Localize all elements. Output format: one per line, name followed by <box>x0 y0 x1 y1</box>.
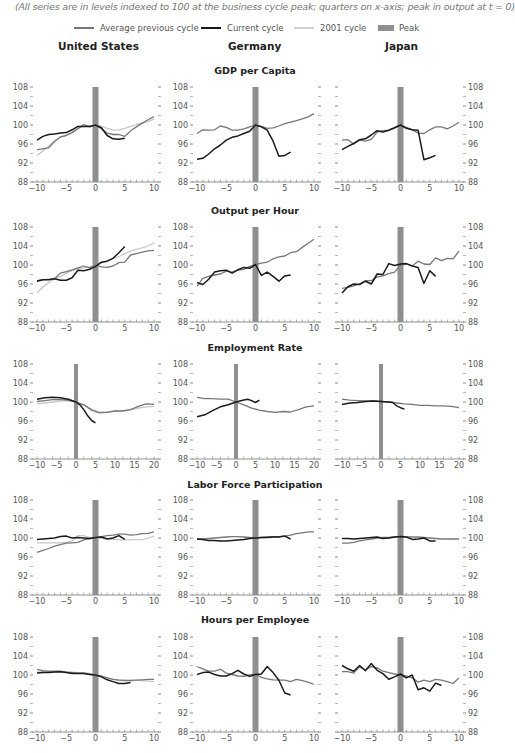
svg-text:108: 108 <box>173 633 188 642</box>
svg-text:88: 88 <box>18 591 28 600</box>
svg-text:−10: −10 <box>334 734 351 743</box>
svg-text:104: 104 <box>13 102 28 111</box>
svg-text:10: 10 <box>309 184 319 193</box>
svg-text:0: 0 <box>398 324 403 333</box>
svg-text:−10: −10 <box>189 597 206 606</box>
panel-output-per-hour-united-states: 889296100104108−10−50510 <box>13 223 161 333</box>
peak-bar <box>398 87 404 182</box>
svg-text:100: 100 <box>13 398 28 407</box>
svg-text:92: 92 <box>18 159 28 168</box>
svg-text:88: 88 <box>468 318 478 327</box>
svg-text:−5: −5 <box>365 734 377 743</box>
svg-text:10: 10 <box>454 184 464 193</box>
panel-gdp-per-capita-germany: 889296100104108−10−50510 <box>173 83 321 193</box>
svg-text:100: 100 <box>173 671 188 680</box>
svg-text:108: 108 <box>13 633 28 642</box>
panel-gdp-per-capita-united-states: 889296100104108−10−50510 <box>13 83 161 193</box>
svg-text:92: 92 <box>468 436 478 445</box>
svg-text:5: 5 <box>427 184 432 193</box>
svg-text:5: 5 <box>93 461 98 470</box>
svg-text:92: 92 <box>18 709 28 718</box>
svg-text:0: 0 <box>93 734 98 743</box>
panel-output-per-hour-germany: 889296100104108−10−50510 <box>173 223 321 333</box>
svg-text:92: 92 <box>18 436 28 445</box>
svg-text:−10: −10 <box>189 324 206 333</box>
svg-text:104: 104 <box>13 652 28 661</box>
svg-text:104: 104 <box>173 515 188 524</box>
series-current-cycle <box>37 247 125 282</box>
svg-text:104: 104 <box>468 652 483 661</box>
svg-text:10: 10 <box>309 324 319 333</box>
svg-text:92: 92 <box>178 299 188 308</box>
svg-text:100: 100 <box>468 671 483 680</box>
svg-text:−5: −5 <box>220 184 232 193</box>
svg-text:88: 88 <box>178 591 188 600</box>
svg-text:5: 5 <box>122 597 127 606</box>
panel-employment-rate-germany: 889296100104108−10−505101520 <box>173 360 321 470</box>
svg-text:0: 0 <box>253 597 258 606</box>
peak-bar <box>253 500 259 595</box>
svg-text:−10: −10 <box>334 461 351 470</box>
svg-text:104: 104 <box>468 102 483 111</box>
svg-text:−10: −10 <box>29 734 46 743</box>
svg-text:−10: −10 <box>29 324 46 333</box>
svg-text:10: 10 <box>454 324 464 333</box>
peak-bar <box>234 364 238 459</box>
svg-text:−5: −5 <box>211 461 223 470</box>
svg-text:88: 88 <box>178 178 188 187</box>
peak-bar <box>253 227 259 322</box>
svg-text:100: 100 <box>468 121 483 130</box>
svg-text:5: 5 <box>122 324 127 333</box>
panel-hours-per-employee-united-states: 889296100104108−10−50510 <box>13 633 161 743</box>
svg-text:−10: −10 <box>334 597 351 606</box>
svg-text:10: 10 <box>454 734 464 743</box>
svg-text:100: 100 <box>13 534 28 543</box>
svg-text:96: 96 <box>178 553 188 562</box>
svg-text:104: 104 <box>173 379 188 388</box>
svg-text:108: 108 <box>173 496 188 505</box>
svg-text:92: 92 <box>178 709 188 718</box>
svg-text:96: 96 <box>18 140 28 149</box>
series-current-cycle <box>37 672 131 684</box>
svg-text:92: 92 <box>468 159 478 168</box>
svg-text:96: 96 <box>468 553 478 562</box>
peak-bar <box>93 637 99 732</box>
panel-labor-force-participation-germany: 889296100104108−10−50510 <box>173 496 321 606</box>
svg-text:5: 5 <box>282 597 287 606</box>
svg-text:10: 10 <box>149 184 159 193</box>
svg-text:96: 96 <box>178 140 188 149</box>
svg-text:0: 0 <box>253 184 258 193</box>
svg-text:−5: −5 <box>220 597 232 606</box>
svg-text:88: 88 <box>178 318 188 327</box>
svg-text:96: 96 <box>468 417 478 426</box>
svg-text:15: 15 <box>434 461 444 470</box>
panel-employment-rate-japan: 889296100104108−10−505101520 <box>334 360 484 470</box>
svg-text:88: 88 <box>178 455 188 464</box>
svg-text:10: 10 <box>415 461 425 470</box>
svg-text:108: 108 <box>468 633 483 642</box>
peak-bar <box>398 500 404 595</box>
svg-text:104: 104 <box>468 379 483 388</box>
svg-text:20: 20 <box>309 461 319 470</box>
svg-text:108: 108 <box>468 496 483 505</box>
svg-text:96: 96 <box>178 280 188 289</box>
svg-text:0: 0 <box>93 184 98 193</box>
peak-bar <box>253 87 259 182</box>
panel-output-per-hour-japan: 889296100104108−10−50510 <box>334 223 484 333</box>
svg-text:20: 20 <box>454 461 464 470</box>
svg-text:96: 96 <box>18 417 28 426</box>
panel-hours-per-employee-japan: 889296100104108−10−50510 <box>334 633 484 743</box>
svg-text:100: 100 <box>173 121 188 130</box>
svg-text:108: 108 <box>13 360 28 369</box>
svg-text:100: 100 <box>173 534 188 543</box>
svg-text:−5: −5 <box>356 461 368 470</box>
svg-text:92: 92 <box>178 159 188 168</box>
svg-text:−10: −10 <box>189 184 206 193</box>
peak-bar <box>93 227 99 322</box>
svg-text:88: 88 <box>18 728 28 737</box>
svg-text:92: 92 <box>178 436 188 445</box>
svg-text:104: 104 <box>13 379 28 388</box>
svg-text:−5: −5 <box>220 324 232 333</box>
svg-text:0: 0 <box>378 461 383 470</box>
